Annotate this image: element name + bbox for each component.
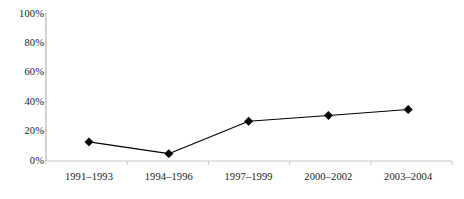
x-axis-tick-label: 1994–1996 <box>145 172 193 183</box>
x-axis-tick-label: 1991–1993 <box>65 172 113 183</box>
x-axis-tick-labels: 1991–19931994–19961997–19992000–20022003… <box>0 0 464 199</box>
x-axis-tick-label: 2000–2002 <box>304 172 352 183</box>
x-axis-tick-label: 1997–1999 <box>225 172 273 183</box>
line-chart: 0%20%40%60%80%100% 1991–19931994–1996199… <box>0 0 464 199</box>
x-axis-tick-label: 2003–2004 <box>384 172 432 183</box>
